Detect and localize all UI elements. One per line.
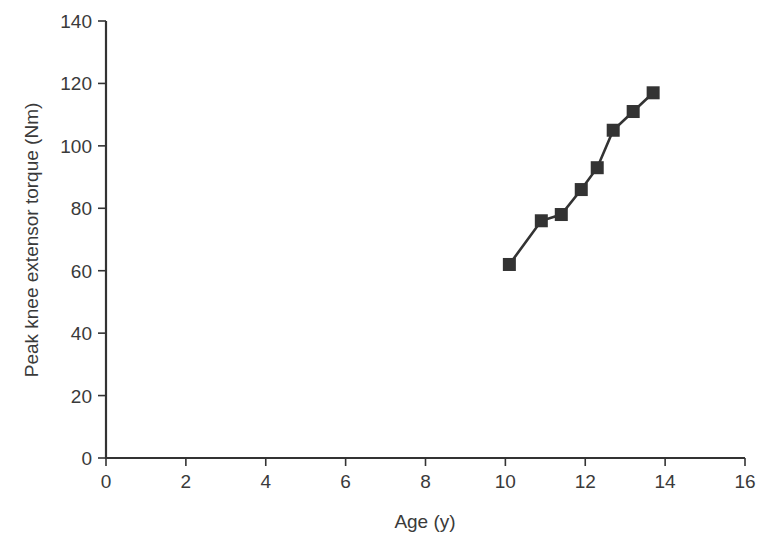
y-tick-label: 140 <box>60 11 92 32</box>
y-tick-label: 60 <box>71 261 92 282</box>
data-point-marker <box>535 214 548 227</box>
data-point-marker <box>591 161 604 174</box>
chart-canvas: 0246810121416020406080100120140 Age (y) … <box>0 0 774 551</box>
data-point-marker <box>647 86 660 99</box>
y-tick-label: 40 <box>71 323 92 344</box>
axes: 0246810121416020406080100120140 <box>60 11 755 492</box>
x-tick-label: 2 <box>181 471 192 492</box>
y-axis-label: Peak knee extensor torque (Nm) <box>21 103 42 378</box>
x-tick-label: 10 <box>495 471 516 492</box>
data-point-marker <box>607 124 620 137</box>
x-tick-label: 12 <box>575 471 596 492</box>
y-tick-label: 120 <box>60 73 92 94</box>
x-tick-label: 4 <box>260 471 271 492</box>
data-point-marker <box>503 258 516 271</box>
y-tick-label: 0 <box>81 448 92 469</box>
x-tick-label: 14 <box>655 471 677 492</box>
x-tick-label: 16 <box>734 471 755 492</box>
data-point-marker <box>575 183 588 196</box>
x-tick-label: 6 <box>340 471 351 492</box>
x-tick-label: 0 <box>101 471 112 492</box>
line-chart: 0246810121416020406080100120140 Age (y) … <box>0 0 774 551</box>
data-point-marker <box>627 105 640 118</box>
y-tick-label: 100 <box>60 136 92 157</box>
y-tick-label: 80 <box>71 198 92 219</box>
x-axis-label: Age (y) <box>394 511 455 532</box>
series-line <box>509 93 653 265</box>
x-tick-label: 8 <box>420 471 431 492</box>
y-tick-label: 20 <box>71 386 92 407</box>
data-point-marker <box>555 208 568 221</box>
data-series <box>503 86 660 271</box>
